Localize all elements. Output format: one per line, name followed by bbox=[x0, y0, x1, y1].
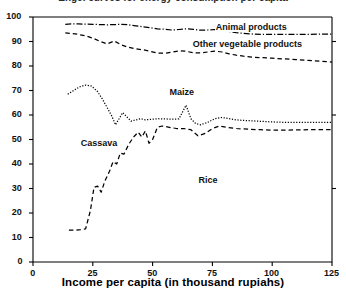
annotation-cassava: Cassava bbox=[80, 138, 119, 148]
chart-root: Engel curves for energy consumption per … bbox=[0, 0, 346, 297]
annotation-other-vegetable-products: Other vegetable products bbox=[192, 39, 303, 49]
series-line-maize bbox=[68, 85, 332, 125]
y-tick-90: 90 bbox=[12, 36, 22, 46]
series-line-animal-products bbox=[65, 24, 332, 35]
annotation-rice: Rice bbox=[197, 175, 218, 185]
x-axis-label: Income per capita (in thousand rupiahs) bbox=[0, 276, 346, 288]
y-tick-10: 10 bbox=[12, 232, 22, 242]
y-tick-60: 60 bbox=[12, 109, 22, 119]
y-tick-40: 40 bbox=[12, 158, 22, 168]
y-tick-0: 0 bbox=[17, 256, 22, 266]
annotation-maize: Maize bbox=[169, 87, 196, 97]
y-tick-20: 20 bbox=[12, 207, 22, 217]
y-tick-50: 50 bbox=[12, 134, 22, 144]
y-tick-30: 30 bbox=[12, 183, 22, 193]
y-tick-80: 80 bbox=[12, 60, 22, 70]
annotation-animal-products: Animal products bbox=[215, 22, 288, 32]
y-tick-100: 100 bbox=[6, 11, 21, 21]
y-tick-70: 70 bbox=[12, 85, 22, 95]
